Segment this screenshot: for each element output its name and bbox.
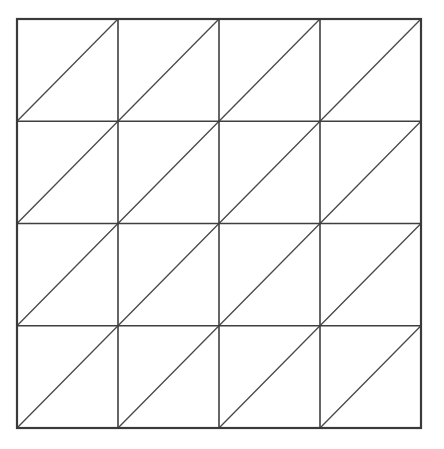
triangulated-grid-figure <box>0 0 444 449</box>
